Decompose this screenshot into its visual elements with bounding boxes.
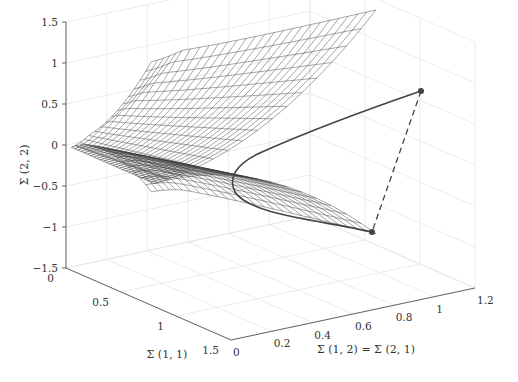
z-tick: 1.5: [41, 16, 58, 28]
y-tick: 0: [47, 272, 54, 284]
grid-lines: [66, 0, 475, 340]
x-axis-label: Σ (1, 2) = Σ (2, 1): [317, 343, 415, 356]
z-tick: 0: [51, 139, 58, 151]
z-tick: −1.5: [33, 262, 59, 274]
y-tick: 0.5: [92, 296, 109, 308]
endpoint-lower-marker: [369, 229, 375, 235]
dashed-line: [372, 91, 421, 232]
z-tick: −1: [43, 221, 58, 233]
z-axis-label: Σ (2, 2): [18, 145, 31, 186]
z-tick: 1: [51, 57, 58, 69]
x-tick: 0.6: [355, 320, 372, 332]
surface-chart: −1.5−1−0.500.511.500.511.500.20.40.60.81…: [0, 0, 518, 382]
x-tick: 1: [436, 303, 443, 315]
x-tick: 0: [233, 346, 240, 358]
x-tick: 1.2: [477, 294, 494, 306]
axes: [66, 22, 475, 340]
x-tick: 0.2: [274, 337, 291, 349]
x-tick: 0.8: [396, 311, 413, 323]
z-tick: −0.5: [33, 180, 59, 192]
y-tick: 1: [157, 320, 164, 332]
y-axis-label: Σ (1, 1): [147, 348, 188, 361]
z-tick: 0.5: [41, 98, 58, 110]
y-tick: 1.5: [202, 344, 219, 356]
endpoint-upper-marker: [418, 88, 424, 94]
x-tick: 0.4: [314, 329, 331, 341]
wireframe-surface: [72, 10, 377, 234]
